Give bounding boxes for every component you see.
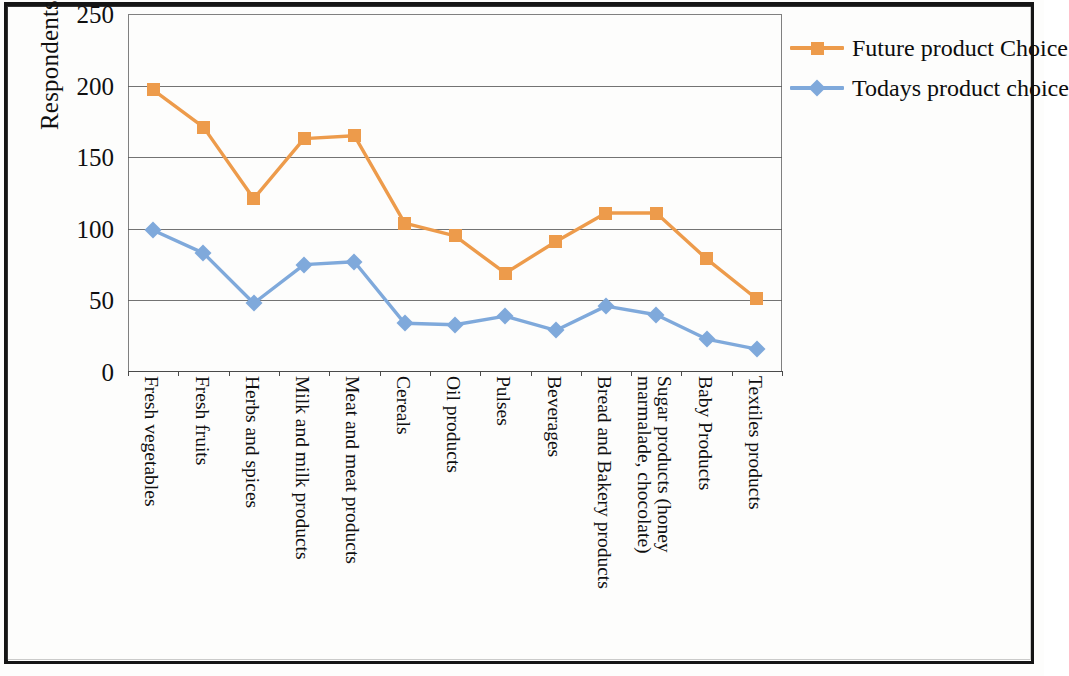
data-point xyxy=(348,129,361,142)
y-tick-label-250: 250 xyxy=(77,2,115,27)
legend-item[interactable]: Todays product choice xyxy=(790,68,1036,108)
data-point xyxy=(197,121,210,134)
data-point xyxy=(650,207,663,220)
data-point xyxy=(599,207,612,220)
x-tick-mark xyxy=(782,371,783,376)
legend-label: Todays product choice xyxy=(852,75,1069,102)
data-point xyxy=(147,83,160,96)
data-point xyxy=(499,267,512,280)
x-category-label: Pulses xyxy=(493,376,513,426)
data-point xyxy=(449,229,462,242)
plot-area xyxy=(128,14,782,372)
x-category-label: Milk and milk products xyxy=(292,376,312,560)
y-tick-label-200: 200 xyxy=(77,73,115,98)
y-tick-label-0: 0 xyxy=(102,360,115,385)
x-category-label: Textiles products xyxy=(745,376,765,509)
y-tick-label-150: 150 xyxy=(77,145,115,170)
legend-item[interactable]: Future product Choice xyxy=(790,28,1036,68)
x-category-label: Meat and meat products xyxy=(343,376,363,564)
y-tick-label-50: 50 xyxy=(89,288,114,313)
data-point xyxy=(700,252,713,265)
y-tick-label-100: 100 xyxy=(77,216,115,241)
data-point xyxy=(750,292,763,305)
x-category-label: Sugar products (honey marmalade, chocola… xyxy=(634,376,674,606)
series-line-future-product-choice xyxy=(153,90,757,299)
x-category-label: Beverages xyxy=(544,376,564,457)
data-point xyxy=(549,235,562,248)
data-point xyxy=(398,217,411,230)
data-point xyxy=(298,132,311,145)
square-marker-icon xyxy=(790,41,844,55)
data-point xyxy=(247,192,260,205)
x-category-label: Baby Products xyxy=(695,376,715,490)
x-category-label: Fresh vegetables xyxy=(141,376,161,507)
x-category-label: Herbs and spices xyxy=(242,376,262,508)
x-category-label: Fresh fruits xyxy=(192,376,212,465)
legend-label: Future product Choice xyxy=(852,35,1068,62)
x-category-label: Cereals xyxy=(393,376,413,434)
chart-legend: Future product ChoiceTodays product choi… xyxy=(790,28,1036,108)
x-category-label: Bread and Bakery products xyxy=(594,376,614,589)
x-category-label: Oil products xyxy=(443,376,463,473)
diamond-marker-icon xyxy=(790,81,844,95)
x-axis-category-labels: Fresh vegetablesFresh fruitsHerbs and sp… xyxy=(128,376,782,626)
y-axis-tick-labels: 250200150100500 xyxy=(0,0,122,376)
